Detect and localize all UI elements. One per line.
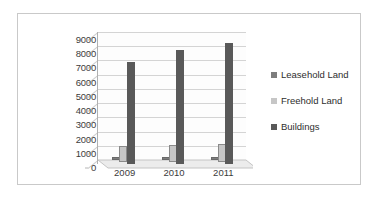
legend-item-label: Freehold Land: [281, 96, 342, 106]
bar-series-container: [98, 32, 256, 164]
legend-swatch-icon: [271, 98, 277, 104]
y-axis-tick-mark: [85, 96, 88, 97]
bar-face: [127, 62, 135, 164]
y-axis-tick-mark: [85, 68, 88, 69]
legend-item-buildings[interactable]: Buildings: [271, 121, 375, 133]
y-axis: 0100020003000400050006000700080009000: [60, 28, 96, 160]
bar-buildings-2010: [176, 50, 184, 164]
y-axis-tick-mark: [85, 40, 88, 41]
y-axis-tick-mark: [85, 153, 88, 154]
bar-face: [225, 43, 233, 164]
legend-swatch-icon: [271, 124, 277, 130]
y-axis-tick-mark: [85, 82, 88, 83]
bar-buildings-2011: [225, 43, 233, 164]
chart-frame: 0100020003000400050006000700080009000 20…: [17, 13, 361, 185]
x-axis: 200920102011: [96, 168, 256, 184]
legend-swatch-icon: [271, 72, 277, 78]
bar-buildings-2009: [127, 62, 135, 164]
y-axis-tick-mark: [85, 111, 88, 112]
legend-item-leasehold-land[interactable]: Leasehold Land: [271, 69, 375, 81]
legend-item-freehold-land[interactable]: Freehold Land: [271, 95, 375, 107]
y-axis-tick-mark: [85, 54, 88, 55]
legend-item-label: Leasehold Land: [281, 70, 349, 80]
y-axis-tick-mark: [85, 168, 88, 169]
chart-legend: Leasehold LandFreehold LandBuildings: [271, 69, 375, 147]
plot-area: 0100020003000400050006000700080009000 20…: [60, 28, 253, 174]
x-axis-tick-label: 2010: [163, 168, 184, 178]
x-axis-tick-label: 2011: [213, 168, 233, 178]
legend-item-label: Buildings: [281, 122, 320, 132]
x-axis-tick-label: 2009: [114, 168, 135, 178]
y-axis-tick-mark: [85, 125, 88, 126]
bar-face: [176, 50, 184, 164]
y-axis-tick-mark: [85, 139, 88, 140]
